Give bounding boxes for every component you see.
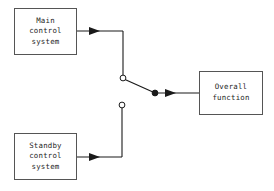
diagram-canvas — [0, 0, 274, 191]
block-overall-function[interactable] — [200, 72, 263, 115]
standby-redundancy-diagram: Main control system Standby control syst… — [0, 0, 274, 191]
switch-terminal-standby-open-circle-icon[interactable] — [119, 102, 125, 108]
switch-common-node-filled-circle-icon[interactable] — [152, 90, 158, 96]
block-main-control-system[interactable] — [15, 9, 77, 55]
arrowhead-standby-output-icon — [89, 153, 100, 161]
arrowhead-overall-input-icon — [165, 89, 176, 97]
arrowhead-main-output-icon — [89, 27, 100, 35]
switch-blade[interactable] — [125, 80, 154, 93]
switch-terminal-main-open-circle-icon[interactable] — [120, 75, 126, 81]
block-standby-control-system[interactable] — [15, 134, 77, 180]
